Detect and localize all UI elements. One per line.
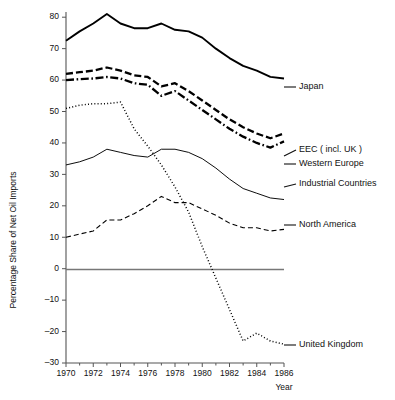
x-tick-labels: 197019721974197619781980198219841986 [57,368,294,378]
series-line-united-kingdom [66,102,284,344]
x-tick-label: 1976 [138,368,157,378]
y-tick-label: 30 [50,169,60,179]
series-label-eec: EEC ( incl. UK ) [299,144,362,154]
series-label-japan: Japan [299,81,324,91]
series-label-western-europe: Western Europe [299,158,364,168]
y-tick-label: –20 [45,326,59,336]
series-label-north-america: North America [299,219,356,229]
chart-canvas: –30–20–1001020304050607080 1970197219741… [0,0,395,400]
y-tick-label: –10 [45,294,59,304]
series-line-north-america [66,196,284,237]
y-tick-label: 60 [50,74,60,84]
oil-imports-line-chart: –30–20–1001020304050607080 1970197219741… [0,0,395,400]
y-tick-label: 50 [50,106,60,116]
series-label-industrial-countries: Industrial Countries [299,178,377,188]
x-tick-label: 1984 [247,368,266,378]
x-tick-label: 1978 [166,368,185,378]
y-axis-title: Percentage Share of Net Oil Imports [8,171,18,308]
x-tick-label: 1974 [111,368,130,378]
y-tick-marks [62,17,66,363]
y-tick-label: 70 [50,43,60,53]
series-paths-group [66,14,284,344]
series-leader-lines [284,87,296,345]
series-line-western-europe [66,77,284,148]
y-tick-label: –30 [45,357,59,367]
x-tick-label: 1982 [220,368,239,378]
leader-eec [284,150,296,156]
x-tick-label: 1980 [193,368,212,378]
series-line-industrial-countries [66,149,284,199]
x-axis-title: Year [275,382,292,392]
x-tick-label: 1972 [84,368,103,378]
y-tick-label: 80 [50,11,60,21]
y-tick-labels: –30–20–1001020304050607080 [45,11,59,367]
y-tick-label: 10 [50,232,60,242]
x-tick-label: 1986 [275,368,294,378]
x-tick-marks [66,363,284,367]
leader-industrial-countries [284,184,296,187]
y-tick-label: 0 [54,263,59,273]
axes-group [62,12,284,367]
series-label-united-kingdom: United Kingdom [299,339,363,349]
x-tick-label: 1970 [57,368,76,378]
y-tick-label: 40 [50,137,60,147]
y-tick-label: 20 [50,200,60,210]
